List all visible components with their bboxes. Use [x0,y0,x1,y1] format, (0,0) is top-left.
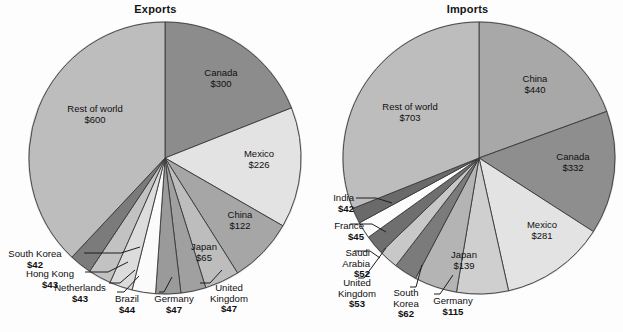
imports-label-saudi-arabia-line2: Arabia [342,258,370,269]
pie-inside-label-china: China$440 [523,73,549,95]
pie-inside-label-value-china: $440 [524,84,545,95]
pie-inside-label-name-china: China [228,209,254,220]
imports-label-south-korea: South Korea $62 [384,288,428,320]
imports-label-germany: Germany $115 [422,296,484,317]
exports-value-germany: $47 [144,305,204,316]
exports-label-united-kingdom-line1: United [215,282,243,293]
imports-value-saudi-arabia: $52 [312,269,370,280]
pie-inside-label-china: China$122 [228,209,254,231]
imports-value-india: $42 [312,204,354,215]
imports-value-germany: $115 [422,307,484,318]
exports-label-south-korea-text: South Korea [8,248,61,259]
exports-label-south-korea: South Korea $42 [0,249,70,270]
pie-inside-label-value-rest-of-world: $703 [399,112,420,123]
pie-inside-label-value-canada: $300 [210,78,231,89]
imports-label-india: India $42 [312,193,354,214]
pie-inside-label-value-mexico: $226 [248,159,269,170]
pie-inside-label-value-china: $122 [229,220,250,231]
pie-inside-label-name-japan: Japan [191,241,217,252]
imports-label-germany-text: Germany [433,295,472,306]
exports-value-united-kingdom: $47 [201,304,257,315]
pie-inside-label-name-canada: Canada [556,151,590,162]
exports-label-hong-kong: Hong Kong $43 [17,269,83,290]
pie-inside-label-mexico: Mexico$281 [527,219,557,241]
exports-label-germany-text: Germany [154,293,193,304]
pie-inside-label-value-japan: $139 [453,260,474,271]
imports-chart-panel: Imports China$440Canada$332Mexico$281Jap… [312,0,623,332]
exports-value-south-korea: $42 [0,260,70,271]
pie-inside-label-name-mexico: Mexico [527,219,557,230]
imports-label-united-kingdom-line2: Kingdom [338,288,376,299]
pie-inside-label-mexico: Mexico$226 [244,148,274,170]
imports-value-united-kingdom: $53 [326,299,388,310]
pie-inside-label-value-japan: $65 [196,252,212,263]
imports-label-france-text: France [334,220,364,231]
pie-inside-label-name-rest-of-world: Rest of world [67,103,122,114]
imports-label-saudi-arabia: Saudi Arabia $52 [312,248,370,280]
exports-value-netherlands: $43 [44,294,116,305]
pie-inside-label-japan: Japan$139 [451,249,477,271]
imports-label-south-korea-line2: Korea [393,298,419,309]
exports-label-united-kingdom-line2: Kingdom [210,293,248,304]
exports-chart-panel: Exports Canada$300Mexico$226China$122Jap… [0,0,311,332]
imports-label-united-kingdom: United Kingdom $53 [326,278,388,310]
pie-inside-label-value-mexico: $281 [531,230,552,241]
exports-label-united-kingdom: United Kingdom $47 [201,283,257,315]
imports-value-france: $45 [312,232,364,243]
imports-value-south-korea: $62 [384,309,428,320]
pie-inside-label-name-mexico: Mexico [244,148,274,159]
exports-value-hong-kong: $43 [17,280,83,291]
pie-inside-label-name-rest-of-world: Rest of world [382,101,437,112]
trade-pie-chart-figure: Exports Canada$300Mexico$226China$122Jap… [0,0,623,332]
imports-label-saudi-arabia-line1: Saudi [345,247,370,258]
pie-inside-label-value-rest-of-world: $600 [84,114,105,125]
imports-label-south-korea-line1: South [393,287,418,298]
pie-inside-label-value-canada: $332 [562,162,583,173]
pie-inside-label-name-japan: Japan [451,249,477,260]
imports-label-france: France $45 [312,221,364,242]
pie-inside-label-name-canada: Canada [204,67,238,78]
exports-label-germany: Germany $47 [144,294,204,315]
exports-value-brazil: $44 [104,305,150,316]
imports-label-india-text: India [333,192,354,203]
pie-inside-label-name-china: China [523,73,549,84]
exports-label-brazil-text: Brazil [115,293,139,304]
